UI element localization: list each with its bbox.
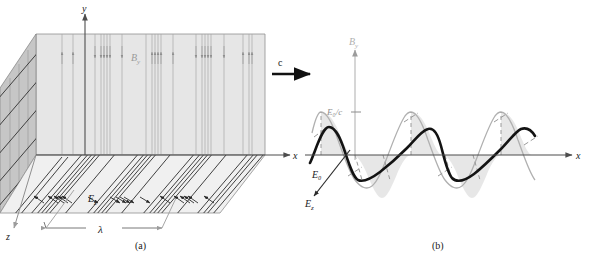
figure-container: y x z c λ By Ez (a) (0, 0, 599, 253)
panel-a: y x z c λ By Ez (a) (0, 3, 310, 252)
panel-b: By x E₀/c E₀ Ez (b) (304, 36, 581, 252)
e-axis-label: Ez (304, 198, 314, 212)
panel-b-caption: (b) (432, 240, 444, 252)
panel-a-caption: (a) (135, 240, 146, 252)
z-axis-label: z (5, 231, 10, 242)
b-axis-label: By (349, 36, 359, 50)
x-axis-label: x (292, 150, 298, 161)
y-axis-label: y (81, 3, 87, 14)
wavelength-label: λ (97, 223, 103, 235)
x-axis-label-b: x (575, 150, 581, 161)
figure-svg: y x z c λ By Ez (a) (0, 0, 599, 253)
b-amplitude-label: E₀/c (326, 107, 342, 117)
speed-of-light-label: c (278, 57, 283, 68)
e-amplitude-label: E₀ (311, 169, 322, 180)
front-face-xy-plane (36, 34, 265, 155)
